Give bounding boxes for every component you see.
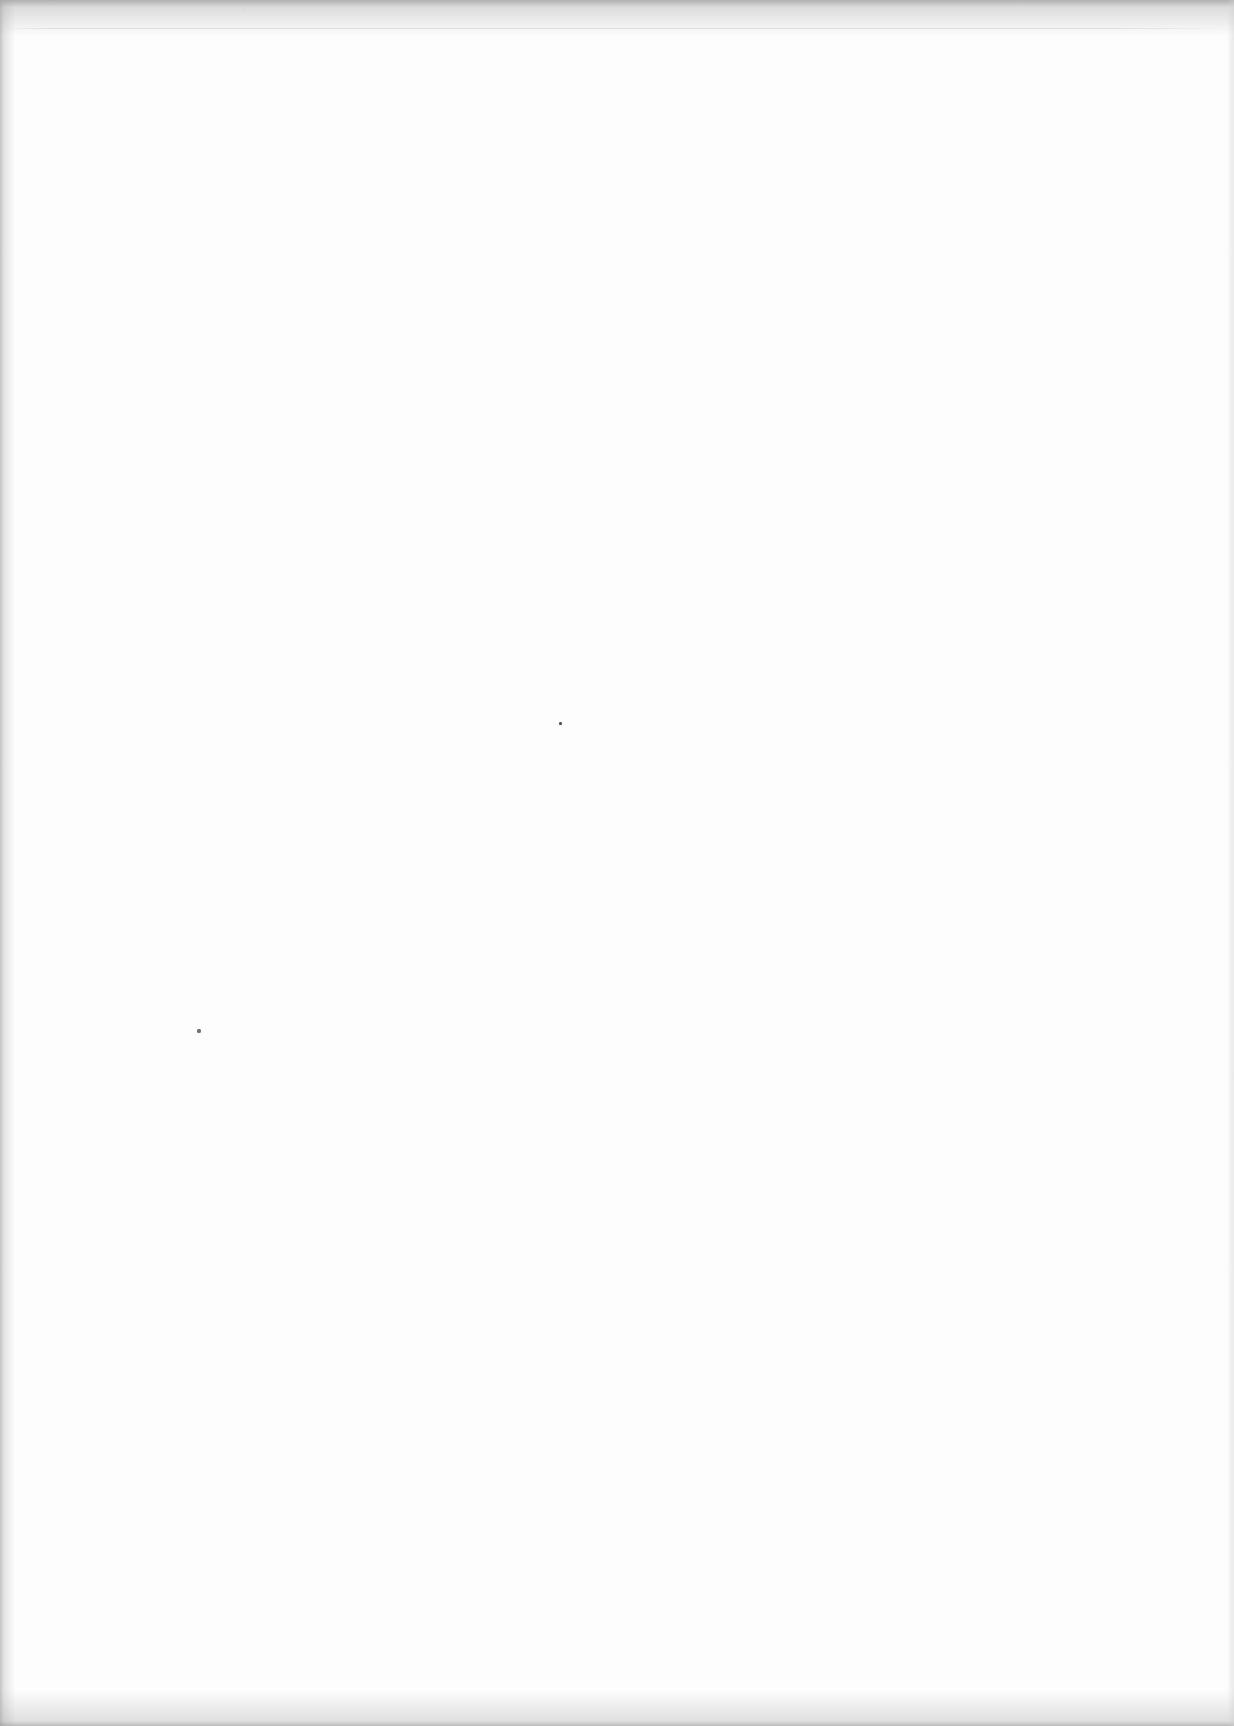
top-hairline-artifact (6, 28, 1229, 29)
ink-specks-layer (0, 0, 1234, 1726)
top-edge-rim-shadow (0, 0, 1234, 7)
top-edge-scan-shadow (0, 0, 1234, 48)
ink-speck (197, 1029, 201, 1033)
ink-speck (559, 722, 562, 725)
bottom-edge-rim-shadow (0, 1721, 1234, 1726)
left-edge-scan-shadow (0, 0, 18, 1726)
right-edge-scan-shadow (1226, 0, 1234, 1726)
left-edge-rim-shadow (0, 0, 4, 1726)
scanned-blank-page (0, 0, 1234, 1726)
bottom-edge-scan-shadow (0, 1678, 1234, 1726)
scan-noise-texture (0, 0, 1234, 1726)
